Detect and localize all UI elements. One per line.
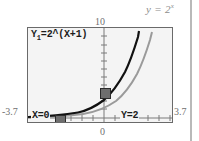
calculator-screen[interactable]: Y1=2^(X+1) X=0 Y=2 [27, 27, 173, 123]
page-edge-rule [190, 0, 192, 141]
trace-x-readout: X=0 [31, 110, 50, 121]
function-annotation: y = 2x [146, 2, 174, 15]
curve-y-equals-2-to-the-x [28, 32, 152, 117]
annotation-base: y = 2 [146, 3, 171, 15]
trace-cursor-foot-marker [55, 115, 66, 123]
trace-cursor[interactable] [100, 88, 111, 99]
screenshot-root: y = 2x 10 -3.7 3.7 0 [0, 0, 199, 141]
equation-body: =2^(X+1) [41, 29, 87, 40]
graph-canvas [28, 28, 173, 123]
axis-label-xmax: 3.7 [174, 106, 187, 117]
axis-label-origin: 0 [100, 126, 105, 137]
trace-y-readout: Y=2 [120, 110, 139, 121]
axis-label-xmin: -3.7 [2, 106, 18, 117]
annotation-exponent: x [171, 2, 174, 10]
equation-readout: Y1=2^(X+1) [31, 29, 87, 42]
calculator-screen-inner: Y1=2^(X+1) X=0 Y=2 [28, 28, 172, 122]
curve-y1-equals-2-to-the-x-plus-1 [28, 31, 139, 117]
axis-label-ymax: 10 [95, 16, 105, 27]
